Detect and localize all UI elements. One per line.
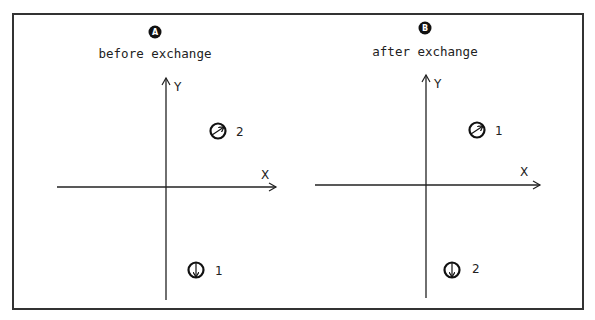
badge-letter: A <box>152 28 159 37</box>
particle-label: 1 <box>215 264 223 278</box>
panel-a: A before exchange X Y 2 1 <box>57 26 276 301</box>
particle-label: 2 <box>472 262 480 276</box>
panel-b: B after exchange X Y 1 2 <box>315 22 540 299</box>
y-axis-label: Y <box>433 77 442 91</box>
particle-label: 2 <box>236 125 244 139</box>
spin-arrow-up-right-icon <box>471 126 483 134</box>
panel-badge-a: A <box>149 26 162 39</box>
badge-letter: B <box>422 24 428 33</box>
panel-badge-b: B <box>419 22 432 35</box>
panel-title: before exchange <box>99 46 212 61</box>
x-axis-label: X <box>261 168 269 182</box>
panel-title: after exchange <box>372 44 477 59</box>
particle: 2 <box>211 124 244 140</box>
y-axis-label: Y <box>173 80 182 94</box>
particle: 1 <box>470 123 503 139</box>
x-axis-label: X <box>520 165 528 179</box>
spin-arrow-up-right-icon <box>212 127 224 135</box>
exchange-diagram: A before exchange X Y 2 1 B after exchan… <box>0 0 595 320</box>
particle: 2 <box>445 262 480 278</box>
particle: 1 <box>189 263 223 279</box>
particle-label: 1 <box>495 124 503 138</box>
